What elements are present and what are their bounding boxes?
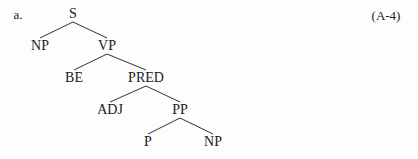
tree-edge xyxy=(74,54,107,70)
tree-node-be: BE xyxy=(65,71,83,85)
tree-node-np2: NP xyxy=(204,135,222,149)
example-label: a. xyxy=(13,8,22,22)
tree-node-s: S xyxy=(69,7,77,21)
tree-edge xyxy=(107,54,146,70)
tree-edge xyxy=(180,118,213,134)
tree-edge xyxy=(40,22,73,38)
tree-node-pred: PRED xyxy=(128,71,164,85)
tree-edge xyxy=(110,86,146,102)
tree-edge xyxy=(146,86,180,102)
tree-edge xyxy=(73,22,107,38)
syntax-tree-figure: a. (A-4) SNPVPBEPREDADJPPPNP xyxy=(0,0,418,159)
equation-number: (A-4) xyxy=(372,9,401,23)
tree-node-pp: PP xyxy=(172,103,188,117)
tree-node-np1: NP xyxy=(31,39,49,53)
tree-node-adj: ADJ xyxy=(97,103,123,117)
tree-node-p: P xyxy=(144,135,152,149)
tree-edge xyxy=(148,118,180,134)
tree-node-vp: VP xyxy=(98,39,116,53)
